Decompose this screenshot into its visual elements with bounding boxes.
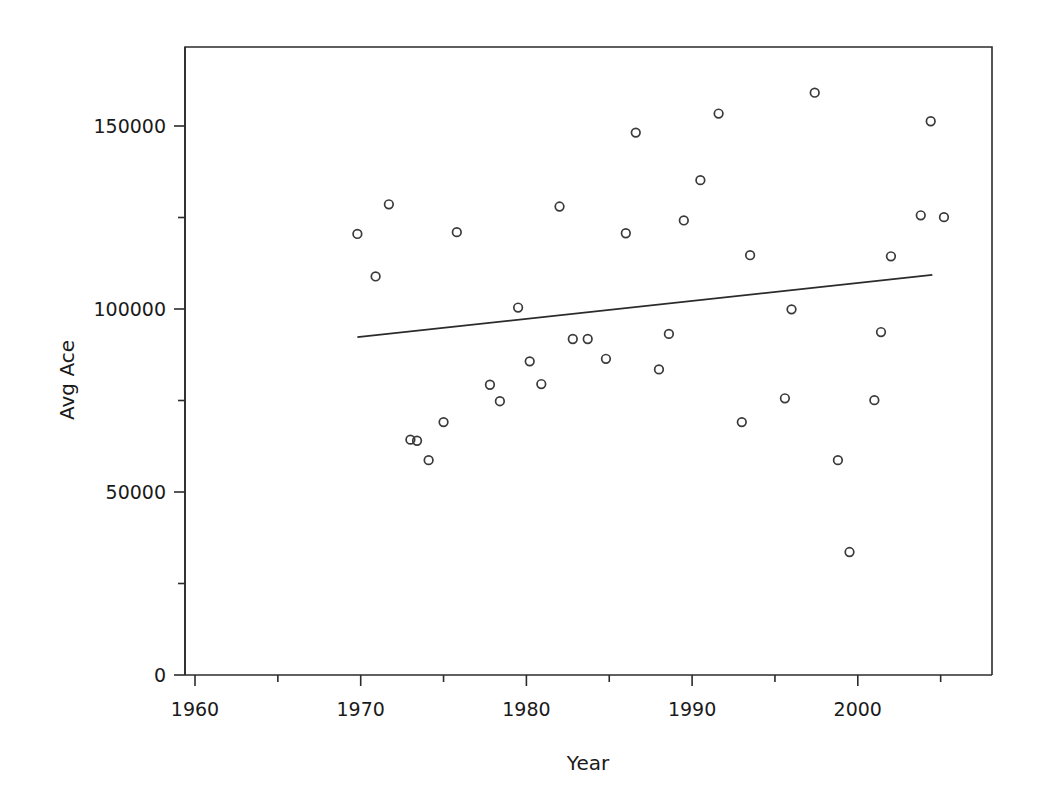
data-point xyxy=(787,305,796,314)
data-point xyxy=(622,229,631,238)
plot-border xyxy=(185,47,992,675)
data-point xyxy=(738,418,747,427)
data-point xyxy=(696,176,705,185)
data-point xyxy=(655,365,664,374)
data-point xyxy=(555,202,564,211)
data-point xyxy=(940,213,949,222)
y-axis-title: Avg Ace xyxy=(55,340,79,420)
data-point xyxy=(781,394,790,403)
data-point xyxy=(568,335,577,344)
x-axis-title: Year xyxy=(566,751,610,775)
data-point xyxy=(486,380,495,389)
y-tick-label: 100000 xyxy=(93,298,166,320)
data-point xyxy=(665,330,674,339)
plot-frame xyxy=(185,47,992,675)
data-point xyxy=(602,354,611,363)
x-tick-label: 2000 xyxy=(834,698,882,720)
data-point xyxy=(887,252,896,261)
y-tick-label: 150000 xyxy=(93,115,166,137)
x-tick-label: 1980 xyxy=(502,698,550,720)
y-tick-label: 50000 xyxy=(106,481,166,503)
data-point xyxy=(714,109,723,118)
data-point xyxy=(845,548,854,557)
data-point xyxy=(385,200,394,209)
y-axis: 050000100000150000 xyxy=(93,47,185,686)
data-point xyxy=(746,251,755,260)
data-point xyxy=(453,228,462,237)
x-axis: 19601970198019902000 xyxy=(171,675,992,720)
data-point xyxy=(916,211,925,220)
x-tick-label: 1970 xyxy=(337,698,385,720)
x-tick-label: 1960 xyxy=(171,698,219,720)
x-tick-label: 1990 xyxy=(668,698,716,720)
data-point xyxy=(514,303,523,312)
data-point xyxy=(439,418,448,427)
data-point xyxy=(926,117,935,126)
trend-line xyxy=(357,275,932,337)
data-point xyxy=(371,272,380,281)
data-point xyxy=(810,88,819,97)
chart-canvas: 050000100000150000 19601970198019902000 … xyxy=(0,0,1044,790)
data-points xyxy=(353,88,948,556)
data-point xyxy=(870,396,879,405)
scatter-chart: 050000100000150000 19601970198019902000 … xyxy=(0,0,1044,790)
data-point xyxy=(537,380,546,389)
data-point xyxy=(525,357,534,366)
data-point xyxy=(583,335,592,344)
data-point xyxy=(680,216,689,225)
data-point xyxy=(834,456,843,465)
data-point xyxy=(496,397,505,406)
data-point xyxy=(424,456,433,465)
data-point xyxy=(631,128,640,137)
data-point xyxy=(877,328,886,337)
y-tick-label: 0 xyxy=(154,664,166,686)
data-point xyxy=(353,230,362,239)
